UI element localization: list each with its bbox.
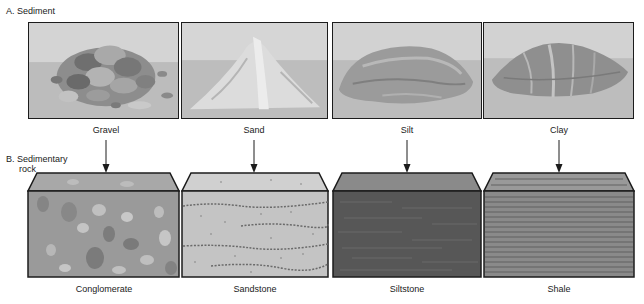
rock-block-sandstone [181, 172, 329, 278]
siltstone-block-illustration [332, 172, 482, 278]
rock-label-siltstone: Siltstone [362, 284, 452, 294]
rock-label-shale: Shale [514, 284, 604, 294]
rock-label-sandstone: Sandstone [210, 284, 300, 294]
sediment-panel-sand [181, 22, 328, 119]
clay-pile-illustration [484, 23, 633, 118]
rock-block-conglomerate [27, 172, 180, 278]
gravel-pile-illustration [29, 23, 178, 118]
sediment-panel-silt [332, 22, 482, 119]
sandstone-block-illustration [181, 172, 329, 278]
arrow-down-icon [101, 140, 111, 173]
sediment-label-clay: Clay [529, 125, 589, 135]
sediment-panel-gravel [28, 22, 179, 119]
shale-block-illustration [483, 172, 635, 278]
sediment-label-gravel: Gravel [76, 125, 136, 135]
silt-pile-illustration [333, 23, 481, 118]
rock-block-siltstone [332, 172, 482, 278]
sediment-label-silt: Silt [377, 125, 437, 135]
arrow-down-icon [249, 140, 259, 173]
section-a-label: A. Sediment [6, 6, 55, 16]
sediment-label-sand: Sand [224, 125, 284, 135]
rock-block-shale [483, 172, 635, 278]
section-b-label-line1: B. Sedimentary [6, 154, 68, 164]
conglomerate-block-illustration [27, 172, 180, 278]
sediment-panel-clay [483, 22, 634, 119]
arrow-down-icon [554, 140, 564, 173]
sand-pile-illustration [182, 23, 327, 118]
rock-label-conglomerate: Conglomerate [59, 284, 149, 294]
section-b-label: B. Sedimentary rock [6, 154, 68, 174]
arrow-down-icon [402, 140, 412, 173]
